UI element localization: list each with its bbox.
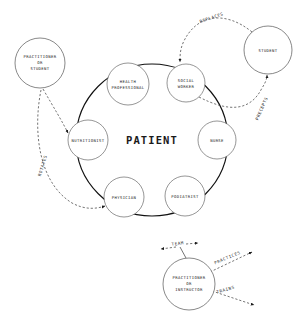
- inner-node-nutritionist[interactable]: NUTRITIONIST: [68, 120, 108, 160]
- external-node-practitioner-or-instructor[interactable]: PRACTITIONER OR INSTRUCTOR: [163, 258, 215, 310]
- practitioner-or-student-label-line1: PRACTITIONER: [24, 54, 57, 59]
- edge-precepts-path: [199, 75, 267, 107]
- edge-label-rotates: ROTATES: [37, 154, 48, 176]
- physician-label: PHYSICIAN: [112, 195, 137, 200]
- edge-team-right-arrow: [186, 243, 198, 244]
- edge-label-rotates-text: ROTATES: [37, 154, 48, 176]
- edge-label-replaces-text: REPLACES: [199, 11, 224, 24]
- edge-label-practices: PRACTICES: [214, 250, 242, 266]
- podiatrist-label: PODIATRIST: [171, 194, 199, 199]
- edge-label-precepts-text: PRECEPTS: [254, 96, 269, 121]
- edge-label-trains: TRAINS: [216, 285, 235, 295]
- edge-team-stem: [180, 247, 186, 258]
- edge-rotates-upper-path: [43, 89, 68, 133]
- practitioner-or-instructor-label-line2: OR: [186, 281, 192, 286]
- health-professional-circle[interactable]: [107, 63, 149, 105]
- social-worker-label-line1: SOCIAL: [178, 78, 195, 83]
- practitioner-or-student-label-line2: OR: [37, 60, 43, 65]
- edge-label-precepts: PRECEPTS: [254, 96, 269, 121]
- practitioner-or-instructor-label-line3: INSTRUCTOR: [175, 287, 203, 292]
- inner-node-podiatrist[interactable]: PODIATRIST: [165, 176, 205, 216]
- inner-node-nurse[interactable]: NURSE: [198, 121, 236, 159]
- social-worker-circle[interactable]: [167, 64, 205, 102]
- nutritionist-label: NUTRITIONIST: [72, 138, 105, 143]
- edge-label-team: TEAM: [171, 240, 184, 247]
- practitioner-or-instructor-label-line1: PRACTITIONER: [173, 275, 206, 280]
- student-label: STUDENT: [258, 48, 277, 53]
- external-node-student[interactable]: STUDENT: [244, 26, 292, 74]
- practitioner-or-student-label-line3: STUDENT: [30, 66, 49, 71]
- edge-label-team-text: TEAM: [171, 240, 184, 247]
- social-worker-label-line2: WORKER: [178, 84, 195, 89]
- care-team-diagram: HEALTH PROFESSIONAL SOCIAL WORKER NUTRIT…: [0, 0, 301, 319]
- edge-label-trains-text: TRAINS: [216, 285, 235, 295]
- edge-replaces-path: [180, 18, 252, 62]
- edge-team-left-arrow: [161, 247, 176, 249]
- nurse-label: NURSE: [210, 138, 224, 143]
- health-professional-label-line1: HEALTH: [120, 79, 137, 84]
- external-node-practitioner-or-student[interactable]: PRACTITIONER OR STUDENT: [15, 38, 65, 88]
- inner-node-physician[interactable]: PHYSICIAN: [104, 177, 144, 217]
- inner-node-social-worker[interactable]: SOCIAL WORKER: [167, 64, 205, 102]
- patient-center-label: PATIENT: [126, 134, 178, 146]
- health-professional-label-line2: PROFESSIONAL: [112, 85, 145, 90]
- inner-node-health-professional[interactable]: HEALTH PROFESSIONAL: [107, 63, 149, 105]
- edge-label-practices-text: PRACTICES: [214, 250, 242, 266]
- edge-label-replaces: REPLACES: [199, 11, 224, 24]
